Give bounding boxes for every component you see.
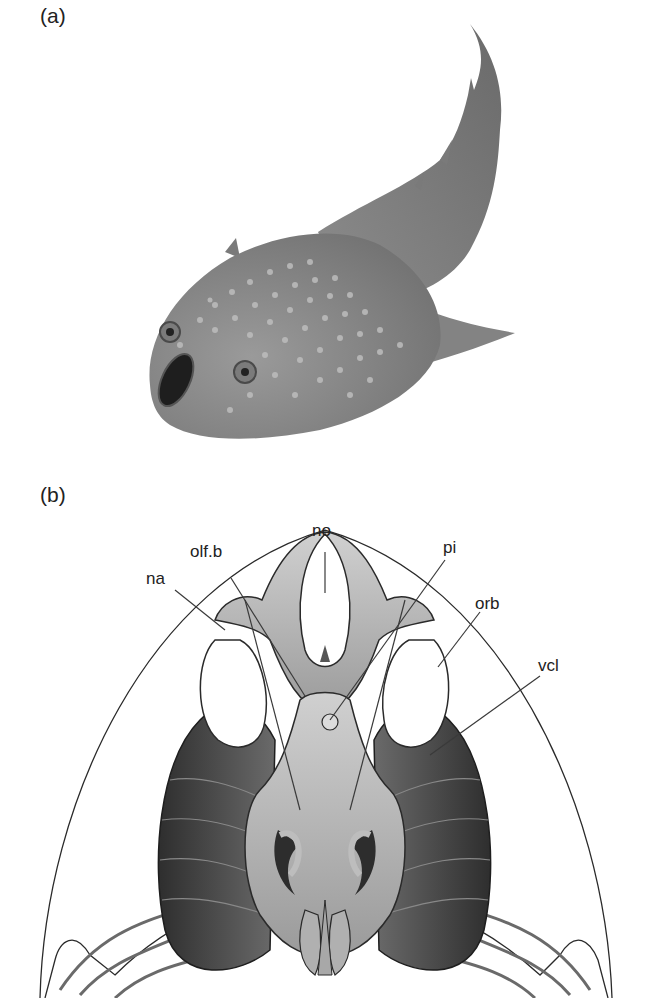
label-no: no	[312, 522, 331, 539]
label-vcl: vcl	[538, 657, 559, 674]
leader-na	[175, 590, 225, 630]
anatomy-diagram	[0, 0, 649, 998]
label-orb: orb	[475, 595, 500, 612]
label-olf-b: olf.b	[190, 543, 222, 560]
label-na: na	[146, 570, 165, 587]
label-pi: pi	[443, 539, 456, 556]
leader-orb	[438, 612, 480, 667]
